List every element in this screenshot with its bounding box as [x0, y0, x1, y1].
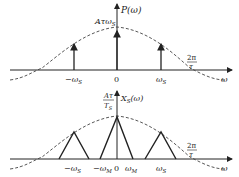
top-tick-pos-ws: ωS [156, 75, 167, 85]
bottom-y-axis-label: XS(ω) [120, 94, 143, 104]
bottom-tick-zero: 0 [114, 164, 119, 173]
top-y-axis-label: P(ω) [120, 5, 142, 15]
top-tick-neg-ws: −ωS [65, 75, 82, 85]
top-tick-zero: 0 [114, 75, 119, 84]
bottom-tick-neg-wm: −ωM [93, 164, 112, 174]
bottom-tick-neg-ws: −ωS [64, 164, 81, 174]
spectrum-triangle-neg-ws [59, 132, 89, 159]
sampling-spectrum-diagram: P(ω) AτωS −ωS 0 ωS 2π τ ω XS(ω) Aτ TS −ω… [0, 0, 239, 177]
svg-text:τ: τ [189, 151, 193, 159]
top-x-axis-label: ω [221, 75, 228, 84]
bottom-tick-pos-ws: ωS [156, 164, 167, 174]
top-impulse-height-label: AτωS [94, 17, 116, 27]
svg-text:Aτ: Aτ [103, 92, 113, 100]
svg-text:2π: 2π [187, 142, 196, 150]
svg-text:2π: 2π [187, 54, 196, 62]
bottom-plot: XS(ω) Aτ TS −ωS −ωM 0 ωM ωS 2π τ ω [10, 91, 232, 174]
svg-text:τ: τ [189, 63, 193, 71]
top-zero-crossing-fraction: 2π τ [187, 54, 197, 71]
top-plot: P(ω) AτωS −ωS 0 ωS 2π τ ω [10, 4, 232, 85]
bottom-x-axis-label: ω [221, 164, 228, 173]
bottom-zero-crossing-fraction: 2π τ [187, 142, 197, 159]
bottom-peak-fraction: Aτ TS [103, 92, 114, 111]
svg-text:TS: TS [104, 102, 113, 111]
bottom-tick-pos-wm: ωM [125, 164, 138, 174]
spectrum-triangle-pos-ws [145, 132, 176, 159]
